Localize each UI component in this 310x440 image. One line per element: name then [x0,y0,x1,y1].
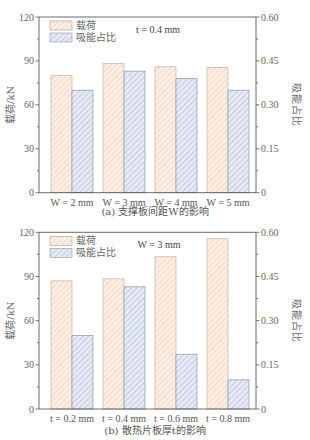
bar-load-3 [207,68,228,193]
bar-absorb-2 [176,354,197,409]
legend-label-load: 载荷 [76,235,96,246]
bar-absorb-3 [228,380,249,409]
svg-text:吸: 吸 [291,83,302,93]
chart-a-svg: W = 2 mmW = 3 mmW = 4 mmW = 5 mm00300.15… [0,0,310,220]
y-tick-label: 120 [19,12,34,23]
bar-absorb-1 [124,287,145,409]
y-tick-label: 60 [24,99,34,110]
svg-text:能: 能 [291,94,303,104]
y2-tick-label: 0.15 [261,359,279,370]
svg-text:占: 占 [291,321,303,331]
y-tick-label: 0 [29,404,34,415]
chart-b-svg: t = 0.2 mmt = 0.4 mmt = 0.6 mmt = 0.8 mm… [0,215,310,440]
svg-text:比: 比 [291,332,302,342]
bar-load-2 [155,257,176,409]
bar-load-3 [207,239,228,409]
y2-tick-label: 0.60 [261,12,279,23]
legend-swatch-absorb [50,33,72,42]
svg-text:吸: 吸 [291,299,302,309]
legend: 载荷吸能占比 [50,235,116,258]
legend-label-absorb: 吸能占比 [76,31,116,43]
svg-text:比: 比 [291,116,302,126]
y-tick-label: 30 [24,359,34,370]
y-tick-label: 90 [24,55,34,66]
y2-axis-title: 吸能占比 [291,83,303,126]
y2-tick-label: 0.30 [261,315,279,326]
chart-b: t = 0.2 mmt = 0.4 mmt = 0.6 mmt = 0.8 mm… [0,215,310,440]
y-tick-label: 30 [24,143,34,154]
legend: 载荷吸能占比 [50,20,116,43]
y2-tick-label: 0 [261,187,266,198]
y-tick-label: 120 [19,227,34,238]
y-axis-title: 载荷/kN [5,301,16,339]
y2-tick-label: 0.60 [261,227,279,238]
legend-swatch-absorb [50,248,72,257]
y-axis-title: 载荷/kN [5,86,16,124]
y-tick-label: 60 [24,315,34,326]
bar-load-0 [51,281,72,409]
bar-absorb-2 [176,78,197,192]
svg-text:占: 占 [291,105,303,115]
bar-load-1 [103,279,124,409]
y-tick-label: 90 [24,271,34,282]
bar-absorb-3 [228,90,249,192]
y2-tick-label: 0.15 [261,143,279,154]
y2-tick-label: 0.30 [261,99,279,110]
chart-b-caption: (b) 散热片板厚t的影响 [0,422,310,437]
y2-tick-label: 0 [261,404,266,415]
chart-a: W = 2 mmW = 3 mmW = 4 mmW = 5 mm00300.15… [0,0,310,220]
svg-text:能: 能 [291,310,303,320]
bar-absorb-0 [72,335,93,409]
legend-swatch-load [50,236,72,245]
bar-absorb-0 [72,90,93,192]
annotation: W = 3 mm [138,239,181,250]
y2-tick-label: 0.45 [261,271,279,282]
y2-tick-label: 0.45 [261,55,279,66]
y2-axis-title: 吸能占比 [291,299,303,342]
annotation: t = 0.4 mm [136,24,180,35]
legend-label-load: 载荷 [76,20,96,31]
bar-absorb-1 [124,71,145,193]
bar-load-2 [155,67,176,193]
legend-swatch-load [50,21,72,30]
bar-load-0 [51,76,72,193]
legend-label-absorb: 吸能占比 [76,246,116,258]
y-tick-label: 0 [29,187,34,198]
bar-load-1 [103,63,124,192]
